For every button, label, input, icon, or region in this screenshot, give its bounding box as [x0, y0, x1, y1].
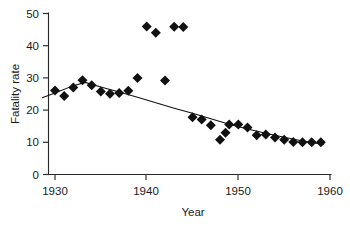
x-axis-tick-labels: 1930 1940 1950 1960: [42, 185, 343, 197]
data-point-markers: [50, 21, 326, 147]
data-point-marker: [114, 88, 124, 98]
fitted-trend-line: [42, 82, 323, 144]
x-tick-label-1940: 1940: [133, 185, 159, 197]
data-point-marker: [298, 137, 308, 147]
y-tick-label-30: 30: [26, 72, 39, 84]
y-tick-label-40: 40: [26, 40, 39, 52]
y-axis-ticks: [43, 14, 49, 175]
y-tick-label-50: 50: [26, 8, 39, 20]
chart-canvas: 50 40 30 20 10 0 1930 1940 1950 1960 Yea…: [0, 0, 350, 241]
y-tick-label-10: 10: [26, 136, 39, 148]
data-point-marker: [151, 28, 161, 38]
data-point-marker: [243, 122, 253, 132]
y-axis-tick-labels: 50 40 30 20 10 0: [26, 8, 39, 181]
data-point-marker: [133, 73, 143, 83]
data-point-marker: [169, 22, 179, 32]
data-point-marker: [261, 130, 271, 140]
data-point-marker: [197, 114, 207, 124]
data-point-marker: [215, 135, 225, 145]
x-tick-label-1930: 1930: [42, 185, 68, 197]
data-point-marker: [206, 120, 216, 130]
data-point-marker: [87, 80, 97, 90]
fatality-rate-scatter-chart: 50 40 30 20 10 0 1930 1940 1950 1960 Yea…: [0, 0, 350, 241]
x-axis-title: Year: [181, 206, 204, 218]
data-point-marker: [123, 86, 133, 96]
data-point-marker: [142, 21, 152, 31]
x-axis-ticks: [55, 175, 330, 181]
data-point-marker: [178, 22, 188, 32]
y-tick-label-0: 0: [33, 169, 39, 181]
data-point-marker: [68, 83, 78, 93]
y-tick-label-20: 20: [26, 104, 39, 116]
data-point-marker: [307, 137, 317, 147]
data-point-marker: [188, 112, 198, 122]
data-point-marker: [160, 75, 170, 85]
y-axis-title: Fatality rate: [9, 64, 21, 124]
data-point-marker: [59, 91, 69, 101]
x-tick-label-1950: 1950: [225, 185, 251, 197]
x-tick-label-1960: 1960: [317, 185, 343, 197]
data-point-marker: [316, 137, 326, 147]
